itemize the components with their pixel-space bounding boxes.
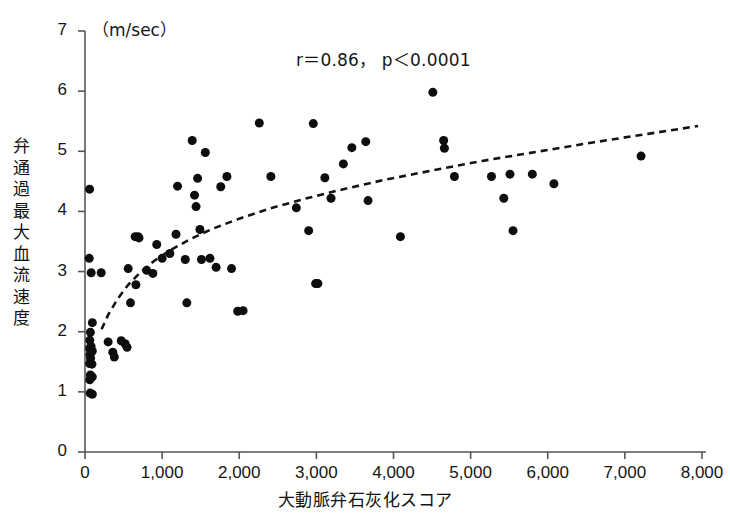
data-point: [396, 232, 405, 241]
x-tick-label: 2,000: [199, 463, 279, 483]
x-tick-label: 1,000: [122, 463, 202, 483]
data-point: [313, 279, 322, 288]
data-point: [528, 170, 537, 179]
data-point: [339, 159, 348, 168]
data-point: [173, 182, 182, 191]
data-point: [172, 230, 181, 239]
data-point: [193, 174, 202, 183]
data-point: [97, 268, 106, 277]
data-point: [320, 173, 329, 182]
data-point: [505, 170, 514, 179]
data-point: [292, 203, 301, 212]
data-point: [222, 172, 231, 181]
data-point: [165, 249, 174, 258]
data-point: [487, 172, 496, 181]
data-point: [212, 263, 221, 272]
data-point: [87, 360, 96, 369]
data-point: [440, 144, 449, 153]
y-axis-ticks: [78, 31, 85, 452]
data-point: [188, 136, 197, 145]
data-point: [227, 264, 236, 273]
data-point: [205, 254, 214, 263]
data-point: [85, 375, 94, 384]
x-tick-label: 7,000: [585, 463, 665, 483]
data-point: [181, 255, 190, 264]
data-point: [110, 352, 119, 361]
data-point: [190, 191, 199, 200]
data-point: [201, 148, 210, 157]
x-tick-label: 3,000: [276, 463, 356, 483]
x-tick-label: 8,000: [662, 463, 730, 483]
data-point: [197, 255, 206, 264]
x-tick-label: 0: [45, 463, 125, 483]
y-tick-label: 1: [37, 381, 67, 401]
plot-canvas: [0, 0, 730, 516]
x-tick-label: 6,000: [508, 463, 588, 483]
data-point: [549, 179, 558, 188]
data-point: [450, 172, 459, 181]
x-axis-ticks: [85, 452, 702, 459]
data-point: [361, 137, 370, 146]
data-point: [182, 298, 191, 307]
y-tick-label: 0: [37, 441, 67, 461]
data-point: [158, 254, 167, 263]
data-points-group: [85, 88, 646, 399]
y-tick-label: 3: [37, 261, 67, 281]
data-point: [439, 136, 448, 145]
y-tick-label: 6: [37, 80, 67, 100]
regression-curve: [102, 126, 699, 329]
data-point: [104, 337, 113, 346]
data-point: [134, 233, 143, 242]
data-point: [327, 194, 336, 203]
data-point: [309, 119, 318, 128]
x-tick-label: 4,000: [354, 463, 434, 483]
y-tick-label: 7: [37, 20, 67, 40]
data-point: [637, 152, 646, 161]
y-tick-label: 5: [37, 140, 67, 160]
data-point: [192, 202, 201, 211]
axis-lines: [85, 31, 706, 452]
data-point: [126, 298, 135, 307]
data-point: [195, 225, 204, 234]
data-point: [88, 318, 97, 327]
data-point: [148, 269, 157, 278]
data-point: [124, 264, 133, 273]
data-point: [304, 226, 313, 235]
data-point: [364, 196, 373, 205]
data-point: [123, 343, 132, 352]
regression-curve-line: [102, 126, 699, 329]
data-point: [85, 254, 94, 263]
data-point: [87, 268, 96, 277]
data-point: [131, 280, 140, 289]
y-tick-label: 4: [37, 200, 67, 220]
data-point: [216, 182, 225, 191]
data-point: [428, 88, 437, 97]
data-point: [509, 226, 518, 235]
data-point: [266, 172, 275, 181]
data-point: [88, 390, 97, 399]
x-tick-label: 5,000: [431, 463, 511, 483]
data-point: [152, 240, 161, 249]
data-point: [239, 306, 248, 315]
data-point: [255, 119, 264, 128]
data-point: [86, 328, 95, 337]
data-point: [85, 185, 94, 194]
data-point: [347, 143, 356, 152]
y-tick-label: 2: [37, 321, 67, 341]
data-point: [499, 194, 508, 203]
scatter-plot-figure: 弁通過最大血流速度 大動脈弁石灰化スコア （m/sec） r＝0.86， p＜0…: [0, 0, 730, 516]
